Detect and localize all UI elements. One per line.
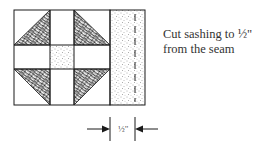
- quilt-block-diagram: ½": [0, 0, 265, 153]
- sashing-strip: [110, 10, 145, 105]
- dimension-label: ½": [118, 124, 129, 134]
- center-square: [50, 45, 74, 69]
- caption-line-2: from the seam: [163, 42, 265, 57]
- caption-line-1: Cut sashing to ½": [163, 27, 265, 42]
- caption: Cut sashing to ½" from the seam: [163, 27, 265, 57]
